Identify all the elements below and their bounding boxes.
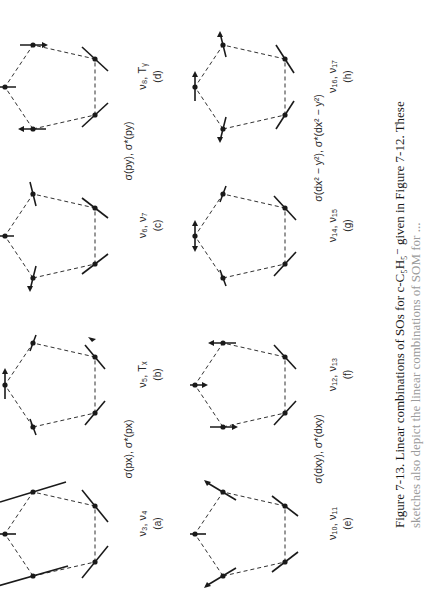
panel-letter-h: (h)	[342, 2, 353, 151]
panel-letter-e: (e)	[342, 449, 353, 598]
caption-line-1: Figure 7-13. Linear combinations of SOs …	[392, 8, 408, 528]
panel-letter-d: (d)	[152, 2, 163, 151]
panel-letter-g: (g)	[342, 151, 353, 300]
panel-letter-b: (b)	[152, 300, 163, 449]
pair-label-cd: σ(py), σ*(py)	[122, 76, 134, 226]
panel-label-a: ν₃, ν₄	[136, 449, 148, 598]
pentagon-diagram-d	[0, 2, 140, 151]
pentagon-diagram-b	[0, 300, 140, 449]
rotated-figure-page: ν₃, ν₄ (a) ν₅, Tₓ (b) ν₆, ν₇ (c) ν₈, Tᵧ …	[0, 0, 424, 598]
pentagon-diagram-f	[190, 300, 330, 449]
panel-label-e: ν₁₀, ν₁₁	[326, 449, 338, 598]
pentagon-diagram-c	[0, 151, 140, 300]
pentagon-diagram-h	[190, 2, 330, 151]
panel-label-h: ν₁₆, ν₁₇	[326, 2, 338, 151]
panel-letter-c: (c)	[152, 151, 163, 300]
panel-letter-f: (f)	[342, 300, 353, 449]
panel-label-d: ν₈, Tᵧ	[136, 2, 148, 151]
pentagon-diagram-g	[190, 151, 330, 300]
pair-label-ef: σ(dxy), σ*(dxy)	[312, 374, 324, 524]
panel-label-f: ν₁₂, ν₁₃	[326, 300, 338, 449]
pentagon-diagram-e	[190, 449, 330, 598]
figure-caption: Figure 7-13. Linear combinations of SOs …	[392, 8, 424, 528]
panel-label-b: ν₅, Tₓ	[136, 300, 148, 449]
pair-label-gh: σ(dx² − y²), σ*(dx² − y²)	[312, 58, 324, 238]
panel-label-g: ν₁₄, ν₁₅	[326, 151, 338, 300]
pentagon-diagram-a	[0, 449, 140, 598]
panel-letter-a: (a)	[152, 449, 163, 598]
panel-label-c: ν₆, ν₇	[136, 151, 148, 300]
caption-line-2: sketches also depict the linear combinat…	[408, 8, 424, 528]
pair-label-ab: σ(px), σ*(px)	[122, 374, 134, 524]
